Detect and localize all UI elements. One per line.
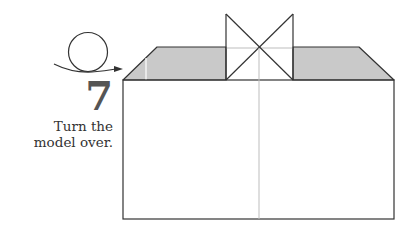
origami-model-drawing <box>0 0 417 230</box>
right-shaded-flap <box>293 47 394 80</box>
origami-step-diagram: 7 Turn the model over. <box>0 0 417 230</box>
left-shaded-flap <box>123 47 226 80</box>
turn-over-arrow-icon <box>54 33 123 73</box>
step-number: 7 <box>85 76 113 116</box>
instruction-line-2: model over. <box>3 134 113 150</box>
step-instruction: Turn the model over. <box>3 118 113 150</box>
instruction-line-1: Turn the <box>3 118 113 134</box>
